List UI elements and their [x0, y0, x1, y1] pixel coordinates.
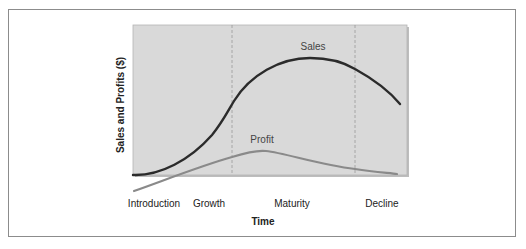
stage-label-maturity: Maturity [274, 198, 310, 209]
stage-label-introduction: Introduction [128, 198, 180, 209]
profit-label: Profit [250, 134, 274, 145]
product-life-cycle-chart: Sales Profit Sales and Profits ($) Intro… [0, 0, 526, 249]
stage-label-decline: Decline [365, 198, 399, 209]
sales-label: Sales [300, 41, 325, 52]
y-axis-label: Sales and Profits ($) [115, 57, 126, 153]
x-axis-label: Time [251, 216, 275, 227]
stage-label-growth: Growth [193, 198, 225, 209]
